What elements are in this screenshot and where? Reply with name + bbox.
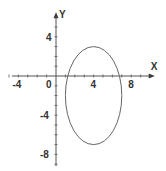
tick-labels: XY-40484-4-8 — [12, 9, 157, 160]
x-axis-arrow-icon — [149, 74, 155, 79]
x-axis-label: X — [151, 61, 158, 72]
y-axis-label: Y — [59, 9, 66, 20]
x-tick-label: 0 — [46, 79, 52, 90]
plot-area — [65, 47, 121, 145]
y-tick-label: -4 — [40, 110, 49, 121]
x-tick-label: -4 — [12, 79, 21, 90]
chart: XY-40484-4-8 — [0, 0, 166, 171]
x-tick-label: 8 — [128, 79, 134, 90]
ellipse-curve — [65, 47, 121, 145]
y-tick-label: 4 — [46, 32, 52, 43]
y-tick-label: -8 — [40, 149, 49, 160]
ticks — [9, 17, 150, 164]
x-tick-label: 4 — [91, 79, 97, 90]
